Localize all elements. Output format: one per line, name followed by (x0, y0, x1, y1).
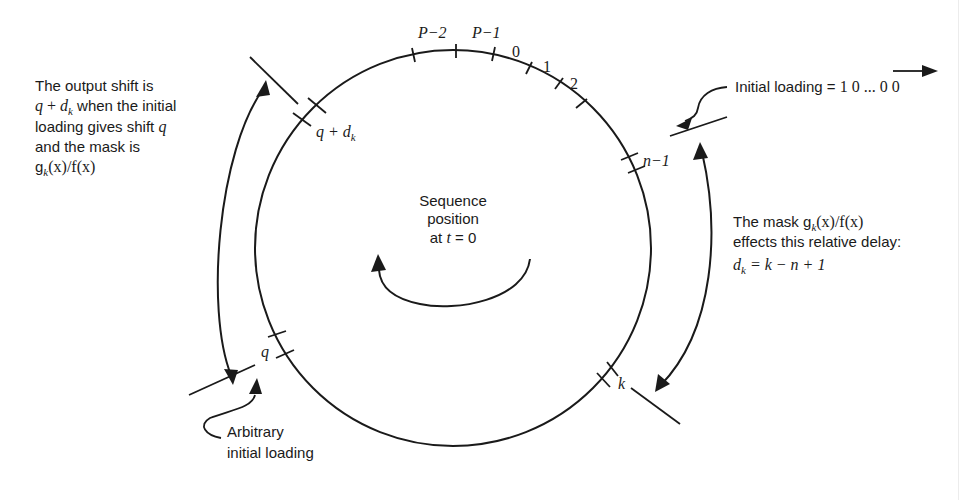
sequence-circle-diagram: P−2 P−1 0 1 2 q + dk n−1 k q (0, 0, 980, 500)
q-plus-dk-q: q (316, 123, 324, 141)
q-plus-dk-sub: k (351, 131, 357, 143)
center-label-line1: Sequence (419, 192, 487, 209)
right-curved-arrow (655, 142, 711, 392)
svg-text:q + dk: q + dk (316, 123, 357, 143)
label-p-minus-1: P−1 (471, 24, 501, 41)
output-shift-line3: loading gives shift q (35, 118, 166, 136)
arbitrary-loading-annotation: Arbitrary initial loading (204, 378, 314, 461)
right-arrow-icon (922, 65, 938, 77)
label-one: 1 (543, 58, 551, 75)
initial-loading-text: Initial loading = 1 0 ... 0 0 (735, 78, 900, 95)
label-n-minus-1: n−1 (643, 152, 670, 169)
pointer-arrow-icon (676, 118, 692, 130)
arbitrary-line1: Arbitrary (227, 423, 284, 440)
label-k: k (618, 375, 626, 392)
os-line3-text: loading gives shift (35, 118, 158, 135)
initial-loading-value: 1 0 ... 0 0 (840, 78, 900, 95)
output-shift-annotation: The output shift is q + dk when the init… (35, 77, 176, 178)
center-label: Sequence position at t = 0 (419, 192, 487, 246)
center-label-line3: at t = 0 (430, 229, 477, 246)
label-zero: 0 (512, 43, 520, 60)
output-shift-line2: q + dk when the initial (35, 97, 176, 117)
os-q: q (35, 97, 43, 115)
label-two: 2 (570, 75, 578, 92)
left-curved-arrow (218, 80, 270, 385)
rotation-arrow-icon (371, 254, 530, 306)
output-shift-line5: gk(x)/f(x) (35, 158, 95, 178)
os-line3-q: q (158, 118, 166, 136)
center-label-at: at (430, 229, 447, 246)
md-eq: = k − n + 1 (746, 256, 826, 273)
center-label-line2: position (427, 210, 479, 227)
mask-delay-line3: dk = k − n + 1 (733, 256, 825, 276)
top-tick-labels: P−2 P−1 0 1 2 (417, 24, 578, 92)
marker-q-plus-dk: q + dk (250, 57, 357, 143)
os-g: g (35, 158, 43, 175)
output-shift-line4: and the mask is (35, 138, 140, 155)
mask-delay-line2: effects this relative delay: (733, 233, 901, 250)
center-label-eq: = 0 (451, 229, 476, 246)
arbitrary-line2: initial loading (227, 444, 314, 461)
md-text: The mask g (733, 213, 811, 230)
q-plus-dk-plus: + (324, 123, 343, 140)
marker-n-minus-1: n−1 (621, 117, 727, 173)
pointer-arrow-icon (249, 378, 262, 394)
output-shift-line1: The output shift is (35, 77, 153, 94)
sequence-circle (255, 50, 651, 446)
marker-k: k (597, 362, 680, 424)
os-rest: when the initial (73, 97, 176, 114)
label-p-minus-2: P−2 (417, 24, 447, 41)
mask-delay-annotation: The mask gk(x)/f(x) effects this relativ… (733, 213, 901, 276)
os-plus: + (43, 97, 60, 114)
os-g-rest: (x)/f(x) (48, 158, 95, 176)
mask-delay-line1: The mask gk(x)/f(x) (733, 213, 863, 233)
md-rest: (x)/f(x) (816, 213, 863, 231)
top-tick-marks (412, 44, 587, 108)
label-q: q (261, 343, 269, 361)
initial-loading-label: Initial loading = (735, 78, 840, 95)
